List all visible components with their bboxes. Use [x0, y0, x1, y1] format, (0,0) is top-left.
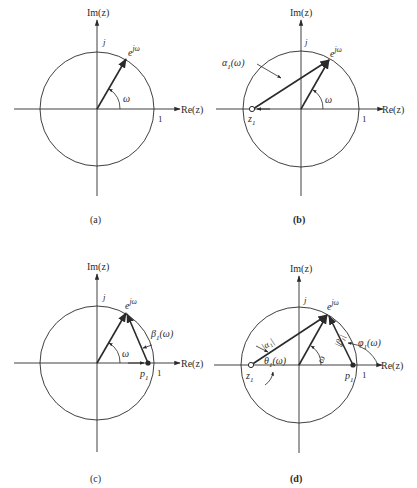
- tick-1-label: 1: [362, 114, 367, 124]
- tick-j-label: j: [303, 295, 307, 305]
- omega-arc: [109, 343, 120, 363]
- ejw-label: ejω: [128, 44, 140, 58]
- caption-c: (c): [90, 473, 101, 485]
- panel-a: Im(z) Re(z) j 1 ejω ω (a): [14, 7, 203, 226]
- axis-y-label: Im(z): [290, 263, 312, 275]
- beta-magnitude-label: |β₁|: [333, 333, 347, 349]
- tick-j-label: j: [102, 292, 106, 302]
- axis-x-label: Re(z): [181, 104, 203, 116]
- tick-1-label: 1: [157, 368, 162, 378]
- alpha-label: α1(ω): [222, 57, 245, 71]
- ejw-label: ejω: [330, 45, 342, 59]
- theta-pointer: [265, 372, 273, 385]
- tick-1-label: 1: [158, 114, 163, 124]
- beta-pointer: [143, 345, 152, 348]
- caption-a: (a): [90, 214, 101, 226]
- tick-1-label: 1: [362, 370, 367, 380]
- pole-marker: [145, 360, 150, 365]
- zero-label: z1: [245, 370, 253, 384]
- zero-vector-alpha: [253, 60, 329, 109]
- omega-label: ω: [122, 348, 129, 359]
- caption-b: (b): [293, 214, 305, 226]
- ejw-vector: [97, 59, 126, 109]
- axis-x-label: Re(z): [181, 358, 203, 370]
- omega-arc: [313, 90, 323, 109]
- unit-circle-figure: Im(z) Re(z) j 1 ejω ω (a) Im(z) Re(z) j …: [0, 0, 417, 488]
- omega-label: ω: [314, 354, 327, 364]
- ejw-label: ejω: [327, 298, 339, 312]
- axis-x-label: Re(z): [381, 360, 403, 372]
- phi-label: φ1(ω): [358, 337, 381, 351]
- panel-d: Im(z) Re(z) j 1 ejω ω z1 p1 |α₁| |β₁| θ1…: [214, 263, 403, 485]
- ejw-label: ejω: [125, 297, 137, 311]
- axis-y-label: Im(z): [87, 261, 109, 273]
- pole-vector-beta: [127, 314, 148, 363]
- panel-c: Im(z) Re(z) j 1 ejω ω p1 β1(ω) (c): [14, 261, 203, 485]
- zero-marker: [248, 362, 253, 367]
- pole-label: p1: [139, 368, 149, 382]
- alpha-pointer: [257, 64, 281, 78]
- caption-d: (d): [290, 473, 302, 485]
- omega-arc: [109, 89, 120, 109]
- axis-y-label: Im(z): [290, 7, 312, 19]
- axis-x-label: Re(z): [382, 104, 404, 116]
- tick-j-label: j: [304, 37, 308, 47]
- omega-label: ω: [325, 94, 332, 105]
- tick-j-label: j: [102, 37, 106, 47]
- zero-marker: [249, 106, 254, 111]
- beta-label: β1(ω): [150, 328, 174, 342]
- pole-marker: [350, 362, 355, 367]
- pole-label: p1: [344, 370, 354, 384]
- omega-label: ω: [123, 93, 130, 104]
- theta-label: θ1(ω): [264, 355, 287, 369]
- axis-y-label: Im(z): [87, 7, 109, 19]
- zero-label: z1: [247, 113, 255, 127]
- panel-b: Im(z) Re(z) j 1 ejω ω z1 α1(ω) (b): [216, 7, 404, 226]
